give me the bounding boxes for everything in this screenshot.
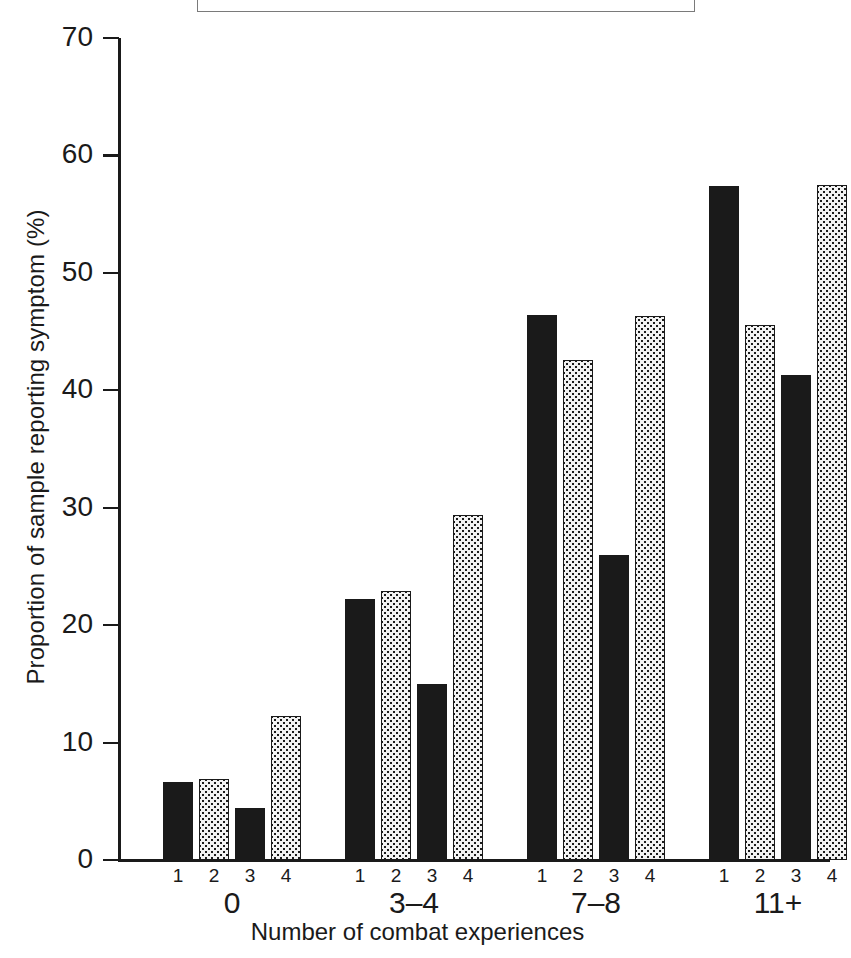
bar-group-3-series-1 xyxy=(709,186,739,860)
x-sublabel-0-2: 2 xyxy=(199,866,229,885)
y-tick-label-text: 20 xyxy=(62,610,93,638)
y-tick-label-text: 30 xyxy=(62,493,93,521)
x-axis-title: Number of combat experiences xyxy=(0,918,835,946)
x-sublabel-0-4: 4 xyxy=(271,866,301,885)
bar-group-0-series-2 xyxy=(199,779,229,860)
y-tick-label-40: 40 xyxy=(33,390,93,391)
x-sublabel-2-3: 3 xyxy=(599,866,629,885)
y-tick-10 xyxy=(103,742,119,744)
y-axis-title: Proportion of sample reporting symptom (… xyxy=(22,167,50,727)
y-tick-label-50: 50 xyxy=(33,273,93,274)
bar-group-3-series-2 xyxy=(745,325,775,860)
x-sublabel-3-4: 4 xyxy=(817,866,847,885)
y-axis-line xyxy=(118,38,121,862)
bar-group-1-series-3 xyxy=(417,684,447,860)
x-group-label-3: 11+ xyxy=(669,888,851,918)
y-tick-label-text: 10 xyxy=(62,728,93,756)
x-sublabel-1-2: 2 xyxy=(381,866,411,885)
x-sublabel-2-1: 1 xyxy=(527,866,557,885)
x-sublabel-0-3: 3 xyxy=(235,866,265,885)
x-sublabel-1-4: 4 xyxy=(453,866,483,885)
y-tick-label-30: 30 xyxy=(33,508,93,509)
bar-group-2-series-4 xyxy=(635,316,665,860)
x-sublabel-2-4: 4 xyxy=(635,866,665,885)
y-tick-label-text: 0 xyxy=(77,845,93,873)
y-tick-50 xyxy=(103,272,119,274)
y-tick-20 xyxy=(103,624,119,626)
y-tick-label-0: 0 xyxy=(33,860,93,861)
x-sublabel-1-3: 3 xyxy=(417,866,447,885)
bar-group-3-series-4 xyxy=(817,185,847,860)
y-tick-30 xyxy=(103,507,119,509)
y-tick-label-text: 40 xyxy=(62,375,93,403)
x-sublabel-2-2: 2 xyxy=(563,866,593,885)
bar-group-0-series-1 xyxy=(163,782,193,860)
caption-box xyxy=(197,0,695,12)
x-sublabel-3-1: 1 xyxy=(709,866,739,885)
bar-group-2-series-3 xyxy=(599,555,629,860)
y-tick-60 xyxy=(103,154,119,156)
bar-group-1-series-1 xyxy=(345,599,375,860)
x-sublabel-0-1: 1 xyxy=(163,866,193,885)
x-sublabel-3-2: 2 xyxy=(745,866,775,885)
bar-group-1-series-4 xyxy=(453,515,483,860)
y-tick-label-text: 60 xyxy=(62,140,93,168)
y-tick-label-10: 10 xyxy=(33,743,93,744)
x-sublabel-3-3: 3 xyxy=(781,866,811,885)
bar-group-2-series-2 xyxy=(563,360,593,860)
bar-group-1-series-2 xyxy=(381,591,411,860)
y-tick-label-20: 20 xyxy=(33,625,93,626)
bar-group-0-series-4 xyxy=(271,716,301,860)
y-tick-label-text: 50 xyxy=(62,258,93,286)
bar-group-3-series-3 xyxy=(781,375,811,860)
x-sublabel-1-1: 1 xyxy=(345,866,375,885)
y-tick-label-text: 70 xyxy=(62,23,93,51)
y-tick-label-60: 60 xyxy=(33,155,93,156)
y-tick-0 xyxy=(103,859,119,861)
y-tick-label-70: 70 xyxy=(33,38,93,39)
y-tick-40 xyxy=(103,389,119,391)
bar-group-0-series-3 xyxy=(235,808,265,860)
y-tick-70 xyxy=(103,37,119,39)
bar-group-2-series-1 xyxy=(527,315,557,860)
